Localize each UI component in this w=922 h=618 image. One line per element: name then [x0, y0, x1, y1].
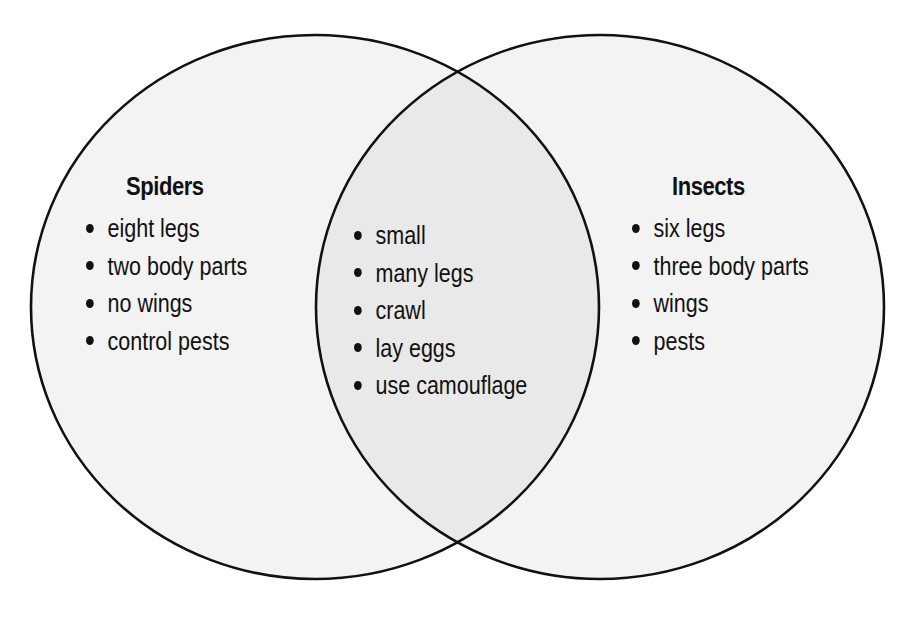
- list-item: control pests: [86, 323, 247, 361]
- bullet-icon: [632, 224, 640, 233]
- bullet-icon: [632, 336, 640, 345]
- bullet-icon: [354, 306, 362, 315]
- spiders-title: Spiders: [126, 172, 256, 201]
- list-item: no wings: [86, 285, 247, 323]
- bullet-icon: [632, 299, 640, 308]
- insects-group: Insects six legs three body parts wings …: [632, 172, 838, 360]
- list-item: many legs: [354, 255, 527, 293]
- list-item: wings: [632, 285, 809, 323]
- list-item: eight legs: [86, 210, 247, 248]
- bullet-icon: [354, 343, 362, 352]
- bullet-icon: [86, 224, 94, 233]
- shared-traits-group: small many legs crawl lay eggs use camou…: [354, 217, 556, 405]
- list-item: three body parts: [632, 248, 809, 286]
- list-item: two body parts: [86, 248, 247, 286]
- list-item: pests: [632, 323, 809, 361]
- bullet-icon: [86, 299, 94, 308]
- list-item: use camouflage: [354, 367, 527, 405]
- bullet-icon: [86, 336, 94, 345]
- insects-title: Insects: [672, 172, 818, 201]
- list-item: lay eggs: [354, 330, 527, 368]
- shared-list: small many legs crawl lay eggs use camou…: [354, 217, 556, 405]
- list-item: six legs: [632, 210, 809, 248]
- bullet-icon: [632, 261, 640, 270]
- spiders-group: Spiders eight legs two body parts no win…: [86, 172, 274, 360]
- bullet-icon: [86, 261, 94, 270]
- bullet-icon: [354, 231, 362, 240]
- bullet-icon: [354, 268, 362, 277]
- bullet-icon: [354, 381, 362, 390]
- list-item: crawl: [354, 292, 527, 330]
- insects-list: six legs three body parts wings pests: [632, 210, 838, 360]
- spiders-list: eight legs two body parts no wings contr…: [86, 210, 274, 360]
- list-item: small: [354, 217, 527, 255]
